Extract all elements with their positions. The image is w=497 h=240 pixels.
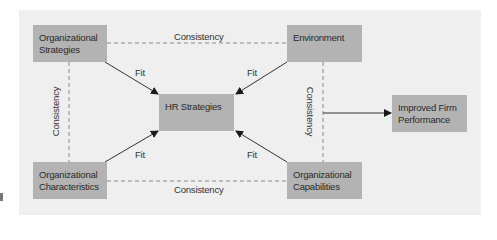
node-environment: Environment [287,25,362,62]
edge-label-consistency-bottom: Consistency [174,184,224,195]
node-label-line1: HR Strategies [165,101,228,113]
node-label-line2: Characteristics [39,181,101,193]
fit-arrow-top-right [236,62,287,94]
edge-artifact [0,193,3,201]
node-label-line1: Environment [293,32,356,44]
edge-label-fit-bottom-left: Fit [135,149,145,160]
fit-arrow-top-left [105,62,158,94]
edge-label-consistency-left: Consistency [50,87,61,137]
edge-label-consistency-top: Consistency [174,31,224,42]
fit-arrow-bottom-left [105,131,158,162]
edge-label-consistency-right: Consistency [305,87,316,137]
node-hr-strategies: HR Strategies [159,94,234,131]
node-label-line2: Capabilities [293,181,356,193]
edge-label-fit-top-right: Fit [247,67,257,78]
node-label-line1: Organizational [39,32,101,44]
edge-label-fit-top-left: Fit [135,67,145,78]
node-improved-firm-performance: Improved Firm Performance [392,95,467,132]
node-label-line1: Organizational [293,169,356,181]
node-label-line2: Strategies [39,44,101,56]
node-organizational-characteristics: Organizational Characteristics [33,162,107,199]
fit-arrow-bottom-right [236,131,287,162]
edge-label-fit-bottom-right: Fit [247,149,257,160]
node-label-line2: Performance [398,114,461,126]
node-label-line1: Organizational [39,169,101,181]
node-label-line1: Improved Firm [398,102,461,114]
node-organizational-strategies: Organizational Strategies [33,25,107,62]
node-organizational-capabilities: Organizational Capabilities [287,162,362,199]
